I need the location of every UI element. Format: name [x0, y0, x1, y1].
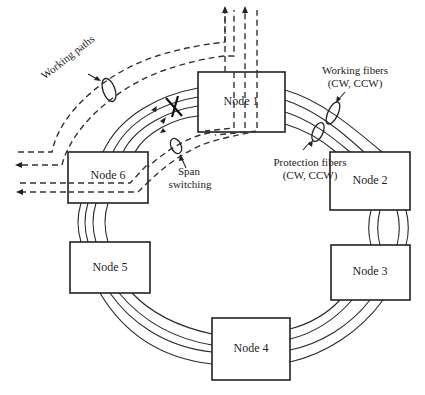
- span-switching-bracket-icon: [168, 137, 184, 156]
- node-3[interactable]: Node 3: [331, 245, 410, 300]
- working-paths-annotation: Working paths: [39, 32, 119, 103]
- working-fibers-annotation: Working fibers (CW, CCW): [322, 64, 388, 126]
- fiber-span-6-5: [78, 203, 108, 242]
- working-fibers-sublabel: (CW, CCW): [328, 77, 383, 90]
- node-4-label: Node 4: [234, 341, 269, 355]
- arrow-left-icon: [15, 162, 22, 168]
- arrow-left-icon: [16, 189, 23, 195]
- arrow-up-icon: [242, 6, 248, 13]
- fiber-span-4-5: [100, 293, 212, 364]
- working-paths-bracket-icon: [99, 77, 118, 104]
- ring-network-diagram: Node 1 Node 2 Node 3 Node 4 Node 5 Node …: [0, 0, 425, 395]
- protection-fibers-label: Protection fibers: [273, 156, 346, 168]
- fiber-span-6-1: [103, 88, 198, 152]
- span-switching-annotation: Span switching: [168, 137, 212, 190]
- node-4[interactable]: Node 4: [212, 318, 290, 380]
- fiber-span-3-4: [290, 300, 383, 362]
- node-6-label: Node 6: [91, 168, 126, 182]
- working-fibers-label: Working fibers: [322, 64, 388, 76]
- span-switching-label: Span: [178, 165, 201, 177]
- span-switching-sublabel: switching: [169, 178, 212, 190]
- cw-arrow-icon: [151, 106, 157, 112]
- node-5[interactable]: Node 5: [70, 242, 150, 293]
- node-1[interactable]: Node 1: [198, 72, 285, 132]
- fiber-span-2-3: [369, 210, 409, 245]
- node-3-label: Node 3: [353, 264, 388, 278]
- node-2-label: Node 2: [353, 173, 388, 187]
- ccw-arrow-icon: [160, 128, 166, 133]
- node-1-label: Node 1: [224, 94, 259, 108]
- node-5-label: Node 5: [93, 260, 128, 274]
- protection-fibers-sublabel: (CW, CCW): [283, 169, 338, 182]
- working-paths-label: Working paths: [39, 32, 97, 81]
